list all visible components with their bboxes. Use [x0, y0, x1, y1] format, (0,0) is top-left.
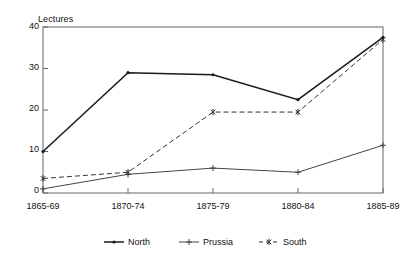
legend-markers — [104, 239, 279, 245]
line-chart: Lectures 40 30 20 10 0 1865-69 1870-74 1… — [0, 0, 416, 261]
series-south — [41, 36, 386, 181]
x-axis-ticks — [43, 188, 383, 193]
series-north — [41, 36, 384, 153]
series-prussia — [40, 142, 386, 192]
y-axis-ticks — [43, 27, 48, 193]
plot-canvas — [0, 0, 416, 261]
